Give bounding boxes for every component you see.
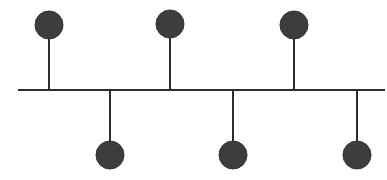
node-bottom-3 — [343, 90, 371, 169]
node-circle-icon — [96, 141, 124, 169]
node-top-2 — [156, 10, 184, 90]
node-top-3 — [280, 11, 308, 90]
node-top-1 — [35, 11, 63, 90]
node-circle-icon — [280, 11, 308, 39]
node-circle-icon — [35, 11, 63, 39]
diagram-canvas — [0, 0, 387, 180]
node-circle-icon — [343, 141, 371, 169]
node-circle-icon — [156, 10, 184, 38]
node-bottom-1 — [96, 90, 124, 169]
bus-topology-diagram — [0, 0, 387, 180]
node-circle-icon — [219, 141, 247, 169]
node-bottom-2 — [219, 90, 247, 169]
